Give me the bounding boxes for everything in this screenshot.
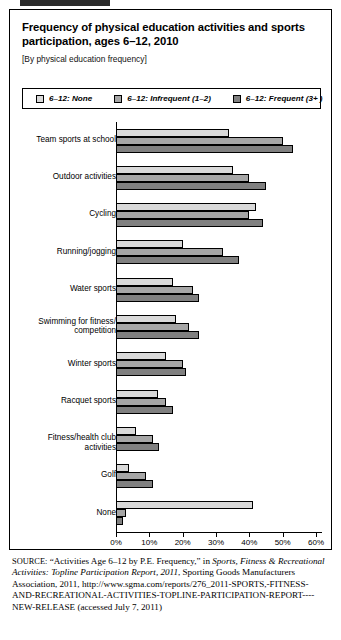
y-axis-label: Water sports bbox=[22, 284, 116, 294]
bar bbox=[116, 331, 199, 339]
bar bbox=[116, 390, 158, 398]
x-axis-line bbox=[116, 532, 322, 533]
y-axis-label: Winter sports bbox=[22, 359, 116, 369]
chart-legend: 6–12: None 6–12: Infrequent (1–2) 6–12: … bbox=[22, 88, 321, 109]
legend-swatch-none-icon bbox=[36, 95, 44, 103]
legend-swatch-infrequent-icon bbox=[114, 95, 122, 103]
bar bbox=[116, 435, 153, 443]
bar bbox=[116, 464, 129, 472]
bar bbox=[116, 352, 166, 360]
bar bbox=[116, 360, 183, 368]
source-text-1: “Activities Age 6–12 by P.E. Frequency,”… bbox=[50, 556, 213, 566]
y-axis-label: Golf bbox=[22, 470, 116, 480]
bar bbox=[116, 182, 266, 190]
legend-label-infrequent: 6–12: Infrequent (1–2) bbox=[127, 94, 211, 103]
legend-label-frequent: 6–12: Frequent (3+ ) bbox=[246, 94, 323, 103]
x-axis-tick bbox=[116, 533, 117, 537]
bar bbox=[116, 248, 223, 256]
bar bbox=[116, 286, 193, 294]
bar bbox=[116, 174, 249, 182]
x-axis-tick bbox=[183, 533, 184, 537]
figure-title: Frequency of physical education activiti… bbox=[22, 20, 322, 48]
bar bbox=[116, 145, 293, 153]
source-note: SOURCE: “Activities Age 6–12 by P.E. Fre… bbox=[12, 556, 330, 613]
x-axis-tick-label: 50% bbox=[275, 538, 291, 547]
y-axis-label: Outdoor activities bbox=[22, 172, 116, 182]
bar bbox=[116, 480, 153, 488]
figure-page: Frequency of physical education activiti… bbox=[0, 0, 341, 640]
bar bbox=[116, 509, 126, 517]
bar bbox=[116, 443, 159, 451]
bar bbox=[116, 427, 136, 435]
x-axis-tick bbox=[149, 533, 150, 537]
source-label: SOURCE: bbox=[12, 557, 47, 566]
y-axis-category-labels: Team sports at schoolOutdoor activitiesC… bbox=[22, 122, 116, 532]
legend-label-none: 6–12: None bbox=[49, 94, 92, 103]
bar bbox=[116, 166, 233, 174]
bar bbox=[116, 501, 253, 509]
x-axis-tick bbox=[316, 533, 317, 537]
x-axis-tick-label: 40% bbox=[241, 538, 257, 547]
bar bbox=[116, 129, 229, 137]
x-axis-tick bbox=[249, 533, 250, 537]
page-top-strip bbox=[20, 0, 110, 6]
x-axis-tick-label: 0% bbox=[110, 538, 122, 547]
bar bbox=[116, 240, 183, 248]
legend-item-none: 6–12: None bbox=[36, 94, 92, 103]
x-axis-tick bbox=[283, 533, 284, 537]
y-axis-label: None bbox=[22, 508, 116, 518]
legend-swatch-frequent-icon bbox=[233, 95, 241, 103]
y-axis-label: Cycling bbox=[22, 209, 116, 219]
bar bbox=[116, 219, 263, 227]
legend-item-infrequent: 6–12: Infrequent (1–2) bbox=[114, 94, 211, 103]
figure-container: Frequency of physical education activiti… bbox=[9, 9, 332, 550]
x-axis-tick-label: 30% bbox=[208, 538, 224, 547]
x-axis-tick-label: 10% bbox=[141, 538, 157, 547]
y-axis-label: Running/jogging bbox=[22, 247, 116, 257]
y-axis-label: Team sports at school bbox=[22, 135, 116, 145]
bar bbox=[116, 256, 239, 264]
bar bbox=[116, 472, 146, 480]
x-axis-tick-label: 20% bbox=[175, 538, 191, 547]
x-axis-tick bbox=[216, 533, 217, 537]
x-axis-tick-label: 60% bbox=[308, 538, 324, 547]
figure-subtitle: [By physical education frequency] bbox=[22, 54, 322, 64]
bar bbox=[116, 406, 173, 414]
bar bbox=[116, 294, 199, 302]
bar bbox=[116, 517, 123, 525]
bar bbox=[116, 398, 166, 406]
bar bbox=[116, 368, 186, 376]
bar bbox=[116, 315, 176, 323]
bar bbox=[116, 278, 173, 286]
bar bbox=[116, 323, 189, 331]
bar bbox=[116, 137, 283, 145]
y-axis-label: Racquet sports bbox=[22, 396, 116, 406]
legend-item-frequent: 6–12: Frequent (3+ ) bbox=[233, 94, 323, 103]
y-axis-label: Fitness/health club activities bbox=[22, 433, 116, 452]
bar bbox=[116, 203, 256, 211]
bar bbox=[116, 211, 249, 219]
bars-region: 0%10%20%30%40%50%60% bbox=[116, 122, 322, 532]
chart-plot-area: Team sports at schoolOutdoor activitiesC… bbox=[22, 122, 322, 544]
y-axis-label: Swimming for fitness/ competition bbox=[22, 317, 116, 336]
